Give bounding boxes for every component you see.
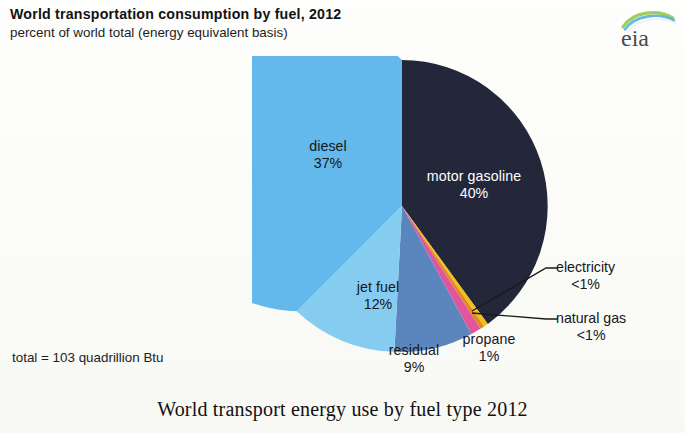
figure-caption: World transport energy use by fuel type … [0, 398, 685, 421]
pie-label-jet-fuel-name: jet fuel [357, 279, 400, 295]
pie-callout-natural-gas: natural gas <1% [556, 310, 626, 344]
chart-subtitle: percent of world total (energy equivalen… [10, 25, 288, 40]
pie-label-jet-fuel-value: 12% [332, 296, 424, 313]
pie-label-propane: propane 1% [448, 331, 530, 365]
pie-label-diesel: diesel 37% [282, 138, 374, 172]
eia-logo: eia [619, 8, 677, 50]
pie-label-jet-fuel: jet fuel 12% [332, 279, 424, 313]
chart-page: World transportation consumption by fuel… [0, 0, 685, 433]
pie-label-motor-gasoline: motor gasoline 40% [404, 168, 544, 202]
pie-callout-electricity: electricity <1% [556, 259, 615, 293]
pie-callout-natural-gas-name: natural gas [556, 310, 626, 326]
pie-callout-natural-gas-value: <1% [556, 327, 626, 344]
pie-callout-electricity-name: electricity [556, 259, 615, 275]
pie-label-propane-name: propane [463, 331, 516, 347]
chart-total-note: total = 103 quadrillion Btu [12, 350, 164, 365]
pie-label-motor-gasoline-value: 40% [404, 185, 544, 202]
pie-label-diesel-name: diesel [309, 138, 347, 154]
pie-label-diesel-value: 37% [282, 155, 374, 172]
pie-label-residual-name: residual [389, 342, 439, 358]
pie-callout-electricity-value: <1% [556, 276, 615, 293]
pie-label-residual-value: 9% [368, 359, 460, 376]
pie-label-motor-gasoline-name: motor gasoline [427, 168, 521, 184]
chart-title: World transportation consumption by fuel… [10, 6, 341, 22]
pie-label-propane-value: 1% [448, 348, 530, 365]
eia-logo-text: eia [621, 25, 649, 50]
pie-label-residual: residual 9% [368, 342, 460, 376]
